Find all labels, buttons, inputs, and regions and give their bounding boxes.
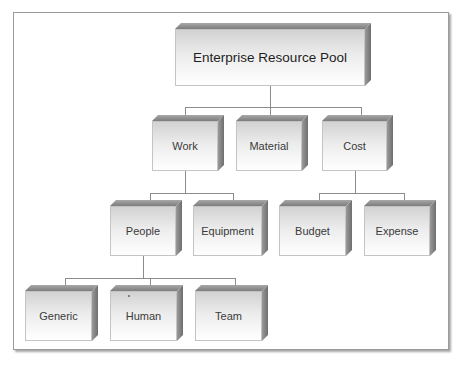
connector-to-equipment xyxy=(233,193,234,200)
node-label: Budget xyxy=(295,225,330,237)
node-front-face: Budget xyxy=(279,206,346,256)
node-side-face xyxy=(365,23,371,86)
node-side-face xyxy=(176,200,182,256)
node-side-face xyxy=(177,285,183,341)
connector-level1-bar xyxy=(185,107,362,108)
connector-to-cost xyxy=(361,107,362,115)
node-front-face: Work xyxy=(152,121,218,171)
node-label: Expense xyxy=(376,225,419,237)
node-label: Material xyxy=(249,140,288,152)
node-label: Work xyxy=(172,140,197,152)
node-front-face: Enterprise Resource Pool xyxy=(175,29,365,86)
connector-to-human xyxy=(150,278,151,285)
node-front-face: Team xyxy=(195,291,262,341)
connector-cost-bar xyxy=(319,193,405,194)
connector-people-trunk xyxy=(143,256,144,278)
node-side-face xyxy=(92,285,98,341)
connector-to-budget xyxy=(319,193,320,200)
node-label: Generic xyxy=(39,310,78,322)
node-label: Cost xyxy=(343,140,366,152)
node-front-face: Generic xyxy=(25,291,92,341)
node-front-face: Cost xyxy=(322,121,387,171)
connector-to-people xyxy=(150,193,151,200)
node-label: Equipment xyxy=(201,225,254,237)
node-side-face xyxy=(346,200,352,256)
connector-work-bar xyxy=(150,193,234,194)
node-side-face xyxy=(387,115,393,171)
node-label: Team xyxy=(215,310,242,322)
node-side-face xyxy=(262,200,268,256)
node-front-face: Equipment xyxy=(193,206,262,256)
node-side-face xyxy=(302,115,308,171)
node-side-face xyxy=(218,115,224,171)
node-side-face xyxy=(430,200,436,256)
node-side-face xyxy=(262,285,268,341)
connector-root-trunk xyxy=(270,86,271,107)
connector-to-team xyxy=(235,278,236,285)
connector-to-material xyxy=(270,107,271,115)
node-label: People xyxy=(126,225,160,237)
node-front-face: People xyxy=(110,206,176,256)
node-front-face: Expense xyxy=(364,206,430,256)
connector-cost-trunk xyxy=(355,171,356,193)
connector-to-generic xyxy=(65,278,66,285)
node-label: Human xyxy=(126,310,161,322)
connector-to-work xyxy=(185,107,186,115)
node-label: Enterprise Resource Pool xyxy=(193,50,347,65)
node-front-face: Material xyxy=(236,121,302,171)
connector-work-trunk xyxy=(185,171,186,193)
marker-dot xyxy=(128,295,130,297)
node-front-face: Human xyxy=(110,291,177,341)
connector-to-expense xyxy=(404,193,405,200)
